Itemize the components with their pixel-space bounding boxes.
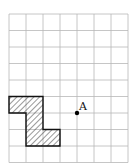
point-a-label: A xyxy=(78,100,88,113)
hatched-shape xyxy=(9,97,60,147)
grid-diagram: A xyxy=(0,0,135,167)
